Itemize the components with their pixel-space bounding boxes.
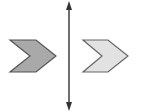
image-chevron: [83, 40, 128, 72]
reflection-diagram: [0, 0, 141, 112]
arrowhead-top-icon: [66, 1, 72, 10]
preimage-chevron: [10, 40, 56, 72]
arrowhead-bottom-icon: [66, 102, 72, 111]
